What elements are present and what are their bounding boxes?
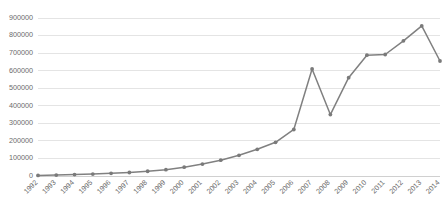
data-point	[127, 171, 131, 175]
y-axis-tick-label: 500000	[9, 83, 33, 92]
y-axis-tick-label: 100000	[9, 153, 33, 162]
data-point	[383, 53, 387, 57]
data-point	[328, 113, 332, 117]
data-point	[201, 162, 205, 166]
y-axis-tick-label: 300000	[9, 118, 33, 127]
data-point	[91, 172, 95, 176]
data-point	[438, 59, 442, 63]
data-point	[109, 171, 113, 175]
data-point	[146, 169, 150, 173]
chart-canvas: 0100000200000300000400000500000600000700…	[0, 0, 448, 210]
y-axis-tick-label: 800000	[9, 30, 33, 39]
data-point	[310, 67, 314, 71]
data-point	[182, 165, 186, 169]
y-axis-tick-label: 600000	[9, 66, 33, 75]
data-point	[73, 173, 77, 177]
data-point	[164, 168, 168, 172]
data-point	[347, 76, 351, 80]
data-point	[255, 147, 259, 151]
data-point	[237, 153, 241, 157]
data-point	[420, 24, 424, 28]
y-axis-tick-label: 400000	[9, 101, 33, 110]
data-point	[36, 174, 40, 178]
y-axis-tick-label: 200000	[9, 136, 33, 145]
data-point	[54, 173, 58, 177]
data-point	[274, 140, 278, 144]
y-axis-tick-label: 900000	[9, 13, 33, 22]
line-chart: 0100000200000300000400000500000600000700…	[0, 0, 448, 210]
chart-background	[0, 0, 448, 210]
data-point	[402, 39, 406, 43]
data-point	[219, 158, 223, 162]
data-point	[292, 128, 296, 132]
y-axis-tick-label: 700000	[9, 48, 33, 57]
data-point	[365, 53, 369, 57]
